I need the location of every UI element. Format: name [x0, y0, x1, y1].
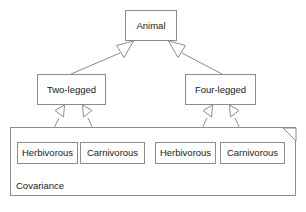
generalization-arrowhead — [55, 105, 65, 117]
generalization-arrowhead — [230, 105, 240, 117]
class-node-herbivorous-four-legged[interactable]: Herbivorous — [155, 142, 216, 164]
edge-two-legged-to-animal — [71, 41, 134, 74]
edge-four-legged-to-animal — [169, 41, 223, 74]
covariance-package-label: Covariance — [16, 181, 64, 191]
generalization-arrowhead — [203, 105, 213, 117]
page-fold-icon — [283, 128, 297, 142]
class-node-four-legged[interactable]: Four-legged — [185, 74, 256, 105]
generalization-arrowhead — [169, 41, 186, 58]
class-node-two-legged[interactable]: Two-legged — [37, 74, 106, 105]
class-node-herbivorous-two-legged[interactable]: Herbivorous — [17, 142, 78, 164]
class-node-animal[interactable]: Animal — [125, 10, 177, 41]
diagram-canvas: Covariance Animal Two-legged Four-legged… — [0, 0, 306, 212]
class-node-carnivorous-two-legged[interactable]: Carnivorous — [80, 142, 145, 164]
generalization-arrowhead — [117, 41, 134, 58]
class-node-carnivorous-four-legged[interactable]: Carnivorous — [220, 142, 285, 164]
generalization-arrowhead — [83, 105, 93, 117]
